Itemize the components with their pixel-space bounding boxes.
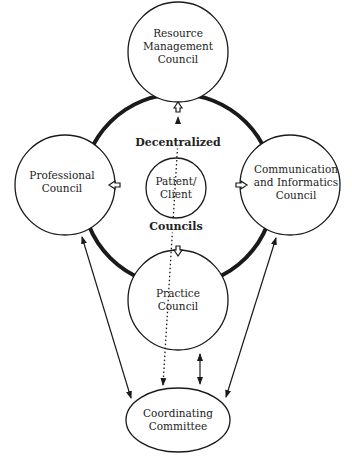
- diagram-canvas: Resource Management Council Professional…: [0, 0, 352, 465]
- communication-coordinating-arrow: [226, 238, 276, 397]
- resource-label: Resource Management Council: [143, 27, 213, 66]
- patient-label: Patient/ Client: [155, 175, 196, 201]
- diagram-graphics: [0, 0, 352, 465]
- professional-coordinating-arrow: [82, 237, 131, 398]
- ring-label-top: Decentralized: [134, 136, 222, 149]
- professional-label: Professional Council: [29, 169, 94, 195]
- ring-label-bottom: Councils: [148, 220, 203, 233]
- hollow-arrow-up-icon: [174, 102, 182, 112]
- practice-label: Practice Council: [156, 287, 200, 313]
- coordinating-label: Coordinating Committee: [143, 407, 213, 433]
- communication-label: Communication and Informatics Council: [254, 163, 338, 202]
